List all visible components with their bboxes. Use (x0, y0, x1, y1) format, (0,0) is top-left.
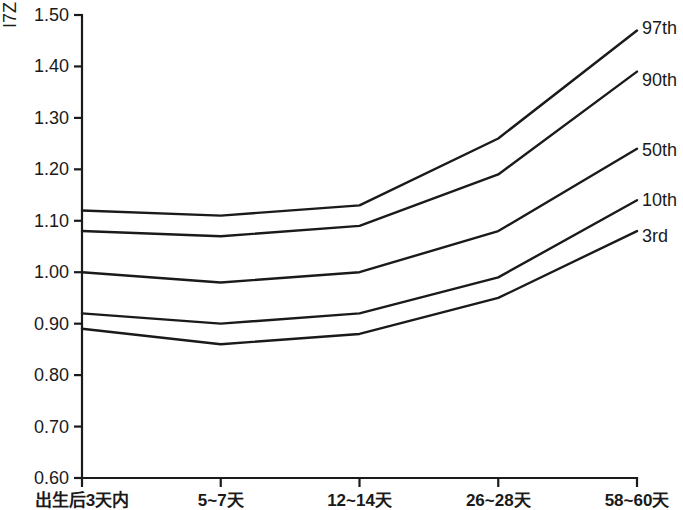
x-axis-category-label-2: 12~14天 (327, 491, 393, 510)
y-axis-tick-label: 1.30 (34, 108, 69, 128)
x-axis-category-label-1: 5~7天 (198, 491, 245, 510)
series-line-10th (82, 200, 637, 323)
x-axis-category-label-4: 58~60天 (605, 491, 671, 510)
series-label-90th: 90th (642, 70, 677, 90)
y-axis-tick-label: 0.70 (34, 417, 69, 437)
x-axis-category-label-0: 出生后3天内 (35, 490, 129, 510)
y-axis-tick-label: 1.20 (34, 159, 69, 179)
y-axis-title: I7Z (0, 2, 20, 28)
series-label-97th: 97th (642, 18, 677, 38)
series-label-50th: 50th (642, 140, 677, 160)
y-axis-tick-label: 1.40 (34, 56, 69, 76)
series-label-10th: 10th (642, 190, 677, 210)
y-axis-tick-label: 0.60 (34, 468, 69, 488)
series-line-97th (82, 30, 637, 215)
series-line-50th (82, 149, 637, 283)
y-axis-tick-label: 1.10 (34, 211, 69, 231)
y-axis-tick-label: 0.80 (34, 365, 69, 385)
y-axis-tick-label: 0.90 (34, 314, 69, 334)
x-axis-category-label-3: 26~28天 (466, 491, 532, 510)
percentile-line-chart: 0.600.700.800.901.001.101.201.301.401.50… (0, 0, 683, 510)
series-label-3rd: 3rd (642, 226, 668, 246)
y-axis-tick-label: 1.50 (34, 5, 69, 25)
chart-container: 0.600.700.800.901.001.101.201.301.401.50… (0, 0, 683, 510)
series-line-3rd (82, 231, 637, 344)
y-axis-tick-label: 1.00 (34, 262, 69, 282)
